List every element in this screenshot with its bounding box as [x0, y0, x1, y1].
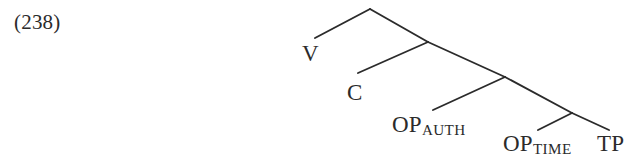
tree-node-c: C [347, 81, 362, 104]
tree-edge-node2-to-node3 [428, 42, 505, 77]
tree-node-tp-text: TP [597, 131, 624, 156]
tree-edge-node4-to-tp [572, 113, 609, 130]
tree-node-op-time-text: OP [503, 131, 533, 156]
tree-node-c-text: C [347, 80, 362, 105]
tree-node-op-auth: OPAUTH [392, 113, 465, 136]
tree-edge-node2-to-c [358, 42, 428, 73]
tree-edge-node4-to-op_time [538, 113, 572, 130]
tree-node-op-auth-text: OP [392, 112, 422, 137]
syntactic-tree-figure: (238) V C OPAUTH OPTIME TP [0, 0, 641, 166]
tree-edge-node3-to-op_auth [433, 77, 505, 110]
tree-edge-group [315, 9, 609, 130]
tree-node-op-auth-subscript: AUTH [422, 121, 466, 138]
tree-node-v-text: V [302, 41, 319, 66]
tree-edge-node3-to-node4 [505, 77, 572, 113]
tree-node-op-time: OPTIME [503, 132, 571, 155]
tree-node-v: V [302, 42, 319, 65]
tree-node-op-time-subscript: TIME [533, 140, 572, 157]
tree-node-tp: TP [597, 132, 624, 155]
tree-edge-root-to-v [315, 9, 370, 38]
tree-edge-root-to-node2 [370, 9, 428, 42]
